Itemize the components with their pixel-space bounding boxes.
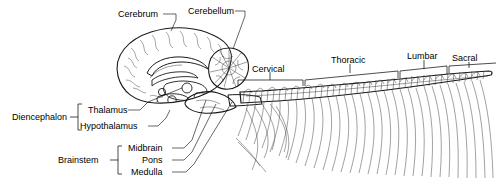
diagram-canvas: Cerebrum Cerebellum Diencephalon Thalamu… [0,0,498,188]
spinal-cord [236,71,493,178]
bracket-cervical [238,80,303,86]
label-sacral: Sacral [452,53,478,63]
label-brainstem: Brainstem [58,155,99,165]
label-thalamus: Thalamus [88,105,128,115]
arbor-vitae [210,50,247,88]
leader-hypothalamus [148,110,170,126]
label-cervical: Cervical [252,64,285,74]
cns-diagram: Cerebrum Cerebellum Diencephalon Thalamu… [0,0,498,188]
label-midbrain: Midbrain [128,143,163,153]
label-diencephalon: Diencephalon [12,112,67,122]
leader-midbrain [172,100,206,148]
cerebellum-structure [209,48,249,89]
leader-cerebellum [233,11,245,49]
label-cerebellum: Cerebellum [188,6,234,16]
cord-segments [243,71,484,103]
cerebrum-structure [117,28,231,112]
bracket-brainstem [110,146,122,174]
label-lumbar: Lumbar [407,51,438,61]
label-thoracic: Thoracic [331,55,366,65]
label-pons: Pons [142,155,163,165]
label-cerebrum: Cerebrum [118,9,158,19]
label-hypothalamus: Hypothalamus [80,121,138,131]
leader-pons [172,104,216,160]
label-medulla: Medulla [131,167,163,177]
